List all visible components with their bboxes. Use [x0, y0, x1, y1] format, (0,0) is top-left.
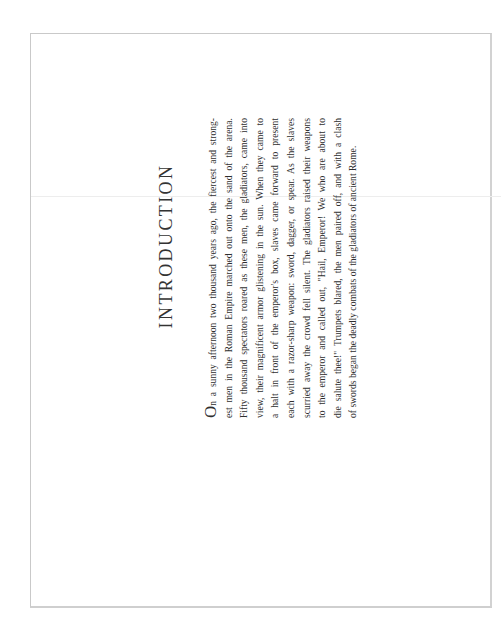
paragraph-line: die salute thee!" Trumpets blared, the m…	[330, 118, 346, 418]
paragraph-line: view, their magnificent armor glistening…	[252, 118, 268, 418]
paragraph-line: of swords began the deadly combats of th…	[345, 118, 361, 418]
drop-cap: O	[201, 406, 220, 418]
paragraph-line: scurried away the crowd fell silent. The…	[299, 118, 315, 418]
line-text: n a sunny afternoon two thousand years a…	[207, 118, 218, 406]
rotated-page-content: INTRODUCTION On a sunny afternoon two th…	[157, 118, 357, 418]
paragraph-line: est men in the Roman Empire marched out …	[221, 118, 237, 418]
paragraph-line: to the emperor and called out, "Hail, Em…	[314, 118, 330, 418]
chapter-title: INTRODUCTION	[157, 118, 175, 418]
paragraph-line: On a sunny afternoon two thousand years …	[205, 118, 221, 418]
paragraph-line: Fifty thousand spectators roared as thes…	[236, 118, 252, 418]
intro-paragraph: On a sunny afternoon two thousand years …	[205, 118, 361, 418]
paragraph-line: each with a razor-sharp weapon: sword, d…	[283, 118, 299, 418]
paragraph-line: a halt in front of the emperor's box, sl…	[267, 118, 283, 418]
